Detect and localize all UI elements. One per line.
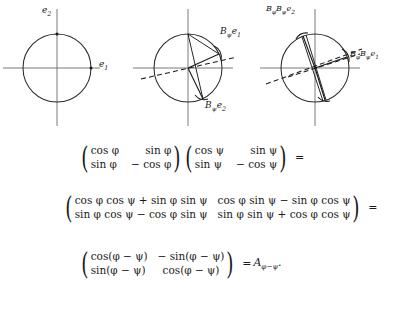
left-paren: ( — [185, 146, 192, 169]
equation-line-3: ( cos(φ − ψ) − sin(φ − ψ) sin(φ − ψ) cos… — [79, 250, 282, 278]
matrix-cell-r2c2: cos(φ − ψ) — [158, 264, 225, 277]
figure-row: e2 e1 Bψe1 Bψe2 — [0, 0, 402, 130]
matrix-rotation-result-body: cos(φ − ψ) − sin(φ − ψ) sin(φ − ψ) cos(φ… — [89, 250, 227, 278]
left-paren: ( — [81, 252, 88, 275]
b-psi-e1-label: Bψe1 — [220, 27, 241, 38]
matrix-cell-r1c1: cos φ cos ψ + sin φ sin ψ — [75, 194, 208, 207]
b-psi-e2-label: Bψe2 — [205, 101, 226, 112]
matrix-cell-r1c2: sin ψ — [236, 144, 277, 157]
matrix-cell-r2c2: − cos φ — [131, 158, 171, 171]
equals-sign: = — [295, 151, 304, 164]
matrix-cell-r2c1: sin φ cos ψ − cos φ sin ψ — [75, 208, 208, 221]
chord-e1-image — [188, 34, 219, 54]
matrix-cell-r2c1: sin ψ — [195, 158, 224, 171]
matrix-expanded-product-body: cos φ cos ψ + sin φ sin ψ cos φ sin ψ − … — [73, 194, 353, 222]
e1-point — [90, 67, 93, 70]
matrix-cell-r2c1: sin φ — [91, 158, 119, 171]
equation-line-1: ( cos φ sin φ sin φ − cos φ ) ( cos ψ si… — [79, 144, 306, 172]
matrix-b-psi: ( cos ψ sin ψ sin ψ − cos ψ ) — [183, 144, 289, 172]
equals-sign: = — [368, 201, 377, 214]
reflection-psi-svg — [121, 0, 255, 130]
left-paren: ( — [65, 196, 72, 219]
equation-block: ( cos φ sin φ sin φ − cos φ ) ( cos ψ si… — [0, 132, 402, 317]
vector-down-image — [315, 68, 325, 100]
matrix-cell-r2c2: − cos ψ — [236, 158, 277, 171]
matrix-b-phi: ( cos φ sin φ sin φ − cos φ ) — [79, 144, 183, 172]
e2-label: e2 — [42, 6, 51, 17]
diagram-composition-phi-psi: BφBψe2 BφBψe1 — [248, 0, 382, 130]
diagram-unit-circle-basis: e2 e1 — [0, 0, 134, 130]
chord-image-pair-right — [302, 37, 323, 101]
matrix-cell-r1c1: cos(φ − ψ) — [91, 250, 148, 263]
unit-circle-basis-svg — [0, 0, 134, 130]
matrix-cell-r1c2: − sin(φ − ψ) — [158, 250, 225, 263]
matrix-cell-r1c1: cos φ — [91, 144, 119, 157]
b-phi-b-psi-e1-label: BφBψe1 — [350, 50, 379, 60]
vector-b-phi-b-psi-e1 — [315, 57, 347, 68]
e1-label: e1 — [99, 60, 108, 71]
matrix-cell-r1c2: sin φ — [131, 144, 171, 157]
matrix-cell-r2c1: sin(φ − ψ) — [91, 264, 148, 277]
matrix-cell-r1c2: cos φ sin ψ − sin φ cos ψ — [218, 194, 351, 207]
diagram-reflection-psi: Bψe1 Bψe2 — [121, 0, 255, 130]
left-paren: ( — [81, 146, 88, 169]
vector-b-phi-b-psi-e2 — [303, 36, 315, 68]
right-paren: ) — [280, 146, 287, 169]
equation-line-2: ( cos φ cos ψ + sin φ sin ψ cos φ sin ψ … — [63, 194, 379, 222]
matrix-rotation-result: ( cos(φ − ψ) − sin(φ − ψ) sin(φ − ψ) cos… — [79, 250, 236, 278]
right-paren: ) — [174, 146, 181, 169]
matrix-b-phi-body: cos φ sin φ sin φ − cos φ — [89, 144, 174, 172]
matrix-cell-r2c2: sin φ sin ψ + cos φ cos ψ — [218, 208, 351, 221]
right-paren: ) — [227, 252, 234, 275]
matrix-b-psi-body: cos ψ sin ψ sin ψ − cos ψ — [193, 144, 279, 172]
right-paren: ) — [353, 196, 360, 219]
composition-phi-psi-svg — [248, 0, 382, 130]
result-term: Aφ−ψ. — [253, 256, 281, 271]
vector-b-psi-e2 — [188, 68, 203, 99]
equals-sign: = — [242, 257, 251, 270]
b-phi-b-psi-e2-label: BφBψe2 — [266, 5, 295, 15]
matrix-cell-r1c1: cos ψ — [195, 144, 224, 157]
matrix-expanded-product: ( cos φ cos ψ + sin φ sin ψ cos φ sin ψ … — [63, 194, 362, 222]
chord-image-pair-left — [306, 35, 326, 100]
e2-point — [56, 33, 59, 36]
